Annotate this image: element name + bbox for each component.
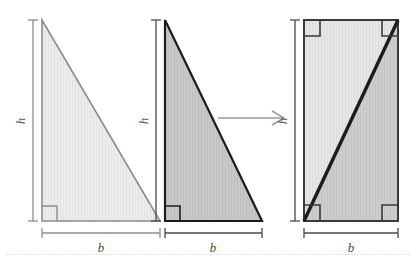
figure-canvas: h b h b (0, 0, 416, 258)
base-label: b (210, 240, 217, 255)
height-label: h (136, 118, 151, 125)
geometry-diagram: h b h b (0, 0, 416, 258)
base-label: b (348, 240, 355, 255)
base-label: b (98, 240, 105, 255)
height-label: h (275, 118, 290, 125)
height-label: h (13, 118, 28, 125)
